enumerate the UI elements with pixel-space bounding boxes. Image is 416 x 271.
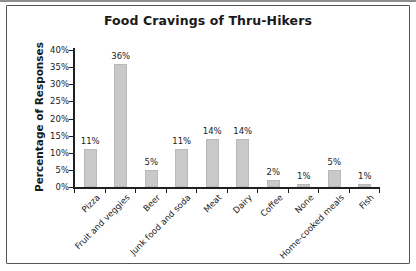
bar: [84, 149, 97, 187]
bar: [206, 139, 219, 187]
bar: [328, 170, 341, 187]
bar-value-label: 14%: [227, 126, 259, 136]
bar-value-label: 5%: [318, 157, 350, 167]
y-tick-label: 10%: [39, 148, 69, 158]
x-tick-mark: [257, 189, 258, 193]
x-tick-mark: [196, 189, 197, 193]
y-tick-label: 25%: [39, 96, 69, 106]
y-tick-mark: [69, 153, 73, 154]
x-tick-mark: [349, 189, 350, 193]
bar: [358, 184, 371, 187]
y-tick-mark: [69, 84, 73, 85]
y-tick-mark: [69, 136, 73, 137]
bar: [175, 149, 188, 187]
x-tick-mark: [135, 189, 136, 193]
x-tick-mark: [166, 189, 167, 193]
y-tick-label: 20%: [39, 114, 69, 124]
bar-value-label: 1%: [349, 171, 381, 181]
scanned-chart-page: Food Cravings of Thru-Hikers Percentage …: [0, 0, 416, 271]
x-tick-mark: [227, 189, 228, 193]
bar: [114, 64, 127, 187]
bar-value-label: 36%: [105, 51, 137, 61]
y-tick-label: 15%: [39, 131, 69, 141]
y-axis-line: [73, 48, 75, 189]
y-tick-mark: [69, 67, 73, 68]
page-top-edge-artifact: [0, 0, 416, 2]
y-tick-label: 5%: [39, 165, 69, 175]
y-tick-mark: [69, 50, 73, 51]
x-tick-mark: [105, 189, 106, 193]
bar-value-label: 14%: [196, 126, 228, 136]
y-tick-label: 30%: [39, 79, 69, 89]
y-tick-mark: [69, 101, 73, 102]
bar-value-label: 11%: [74, 136, 106, 146]
x-tick-mark: [379, 189, 380, 193]
y-tick-label: 0%: [39, 182, 69, 192]
bar: [297, 184, 310, 187]
bar-value-label: 5%: [135, 157, 167, 167]
bar-value-label: 2%: [257, 167, 289, 177]
y-tick-label: 35%: [39, 62, 69, 72]
x-tick-mark: [318, 189, 319, 193]
bar: [236, 139, 249, 187]
y-tick-label: 40%: [39, 45, 69, 55]
bar-value-label: 1%: [288, 171, 320, 181]
y-tick-mark: [69, 187, 73, 188]
bar-value-label: 11%: [166, 136, 198, 146]
y-tick-mark: [69, 119, 73, 120]
y-tick-mark: [69, 170, 73, 171]
bar: [267, 180, 280, 187]
x-tick-mark: [74, 189, 75, 193]
chart-title: Food Cravings of Thru-Hikers: [6, 13, 410, 28]
x-tick-mark: [288, 189, 289, 193]
bar: [145, 170, 158, 187]
